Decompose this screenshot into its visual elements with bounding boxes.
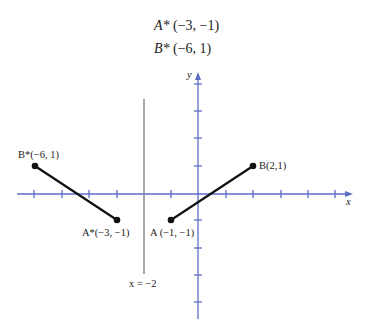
y-axis-label: y <box>186 69 192 80</box>
x-axis-label: x <box>345 196 351 207</box>
point-a-label: A (−1, −1) <box>150 227 195 239</box>
point-b-star-label: B*(−6, 1) <box>18 149 59 161</box>
coordinate-plane: x y x = −2 A (−1, −1) B(2,1) A*(−3, −1) … <box>0 0 376 330</box>
point-b-label: B(2,1) <box>259 160 287 172</box>
y-axis <box>194 76 202 319</box>
point-b-star <box>32 163 39 170</box>
x-axis <box>17 190 350 198</box>
point-a-star-label: A*(−3, −1) <box>82 227 130 239</box>
point-a-star <box>114 217 121 224</box>
segment-a-star-b-star <box>35 166 117 220</box>
point-a <box>168 217 175 224</box>
y-axis-arrow-icon <box>195 72 201 80</box>
point-b <box>250 163 257 170</box>
segment-ab <box>171 166 253 220</box>
reflection-line-label: x = −2 <box>129 278 157 289</box>
